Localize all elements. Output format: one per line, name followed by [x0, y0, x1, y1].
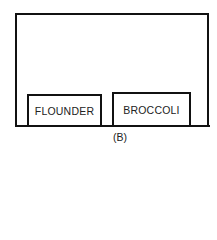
item-box-broccoli: BROCCOLI: [112, 92, 191, 126]
figure-caption: (B): [0, 131, 217, 143]
item-label-broccoli: BROCCOLI: [123, 104, 179, 116]
item-box-flounder: FLOUNDER: [27, 94, 102, 126]
item-label-flounder: FLOUNDER: [35, 105, 94, 117]
